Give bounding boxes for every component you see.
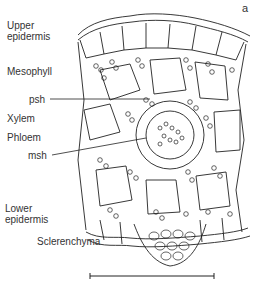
label-lower-epidermis: Lower epidermis — [5, 203, 48, 225]
scale-bar — [90, 273, 214, 279]
label-msh: msh — [28, 150, 47, 161]
label-xylem: Xylem — [7, 113, 35, 124]
msh-leader-line — [52, 138, 146, 155]
label-mesophyll: Mesophyll — [7, 66, 52, 77]
label-sclerenchyma: Sclerenchyma — [37, 236, 100, 247]
label-psh: psh — [29, 94, 45, 105]
label-upper-epidermis: Upper epidermis — [7, 20, 50, 42]
panel-label: a — [242, 3, 248, 14]
label-phloem: Phloem — [7, 132, 41, 143]
sclerenchyma-bulge — [134, 224, 206, 266]
